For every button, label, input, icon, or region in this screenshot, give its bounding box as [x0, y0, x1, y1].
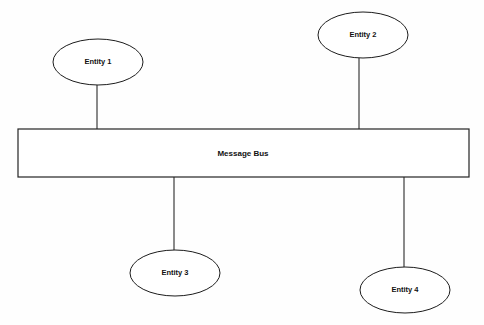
entity-3-label: Entity 3: [161, 268, 188, 277]
message-bus-node[interactable]: Message Bus: [18, 129, 469, 177]
message-bus-diagram: Message Bus Entity 1 Entity 2 Entity 3 E…: [0, 0, 484, 325]
entity-3-node[interactable]: Entity 3: [130, 250, 220, 296]
entity-4-node[interactable]: Entity 4: [360, 267, 450, 313]
entity-2-node[interactable]: Entity 2: [318, 12, 408, 58]
message-bus-label: Message Bus: [217, 149, 269, 158]
entity-1-label: Entity 1: [84, 57, 111, 66]
entity-2-label: Entity 2: [349, 30, 376, 39]
diagram-canvas: Message Bus Entity 1 Entity 2 Entity 3 E…: [0, 0, 484, 325]
entity-4-label: Entity 4: [391, 285, 419, 294]
entity-1-node[interactable]: Entity 1: [53, 39, 143, 85]
